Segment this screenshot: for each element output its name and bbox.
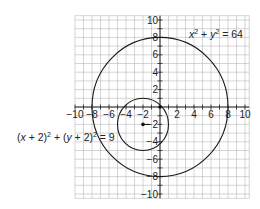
x-tick-label: 4 (191, 109, 197, 120)
y-tick-label: 10 (147, 15, 159, 26)
x-tick-label: −10 (67, 109, 84, 120)
y-tick-label: 2 (152, 84, 158, 95)
x-tick-label: 6 (208, 109, 214, 120)
y-tick-label: 6 (152, 49, 158, 60)
coordinate-plane-chart: −10−8−6−4−2246810108642−2−4−6−8−10 x2 + … (0, 0, 260, 209)
x-tick-label: 10 (239, 109, 251, 120)
y-tick-label: 4 (152, 67, 158, 78)
y-tick-label: −10 (141, 189, 158, 200)
y-tick-label: −4 (147, 136, 159, 147)
x-tick-label: −6 (103, 109, 115, 120)
big-circle-equation: x2 + y2 = 64 (188, 28, 243, 40)
small-circle-equation: (x + 2)2 + (y + 2)2 = 9 (17, 131, 115, 143)
point-marker (158, 105, 162, 109)
x-tick-label: 2 (174, 109, 180, 120)
x-tick-label: −4 (120, 109, 132, 120)
y-tick-label: −6 (147, 154, 159, 165)
